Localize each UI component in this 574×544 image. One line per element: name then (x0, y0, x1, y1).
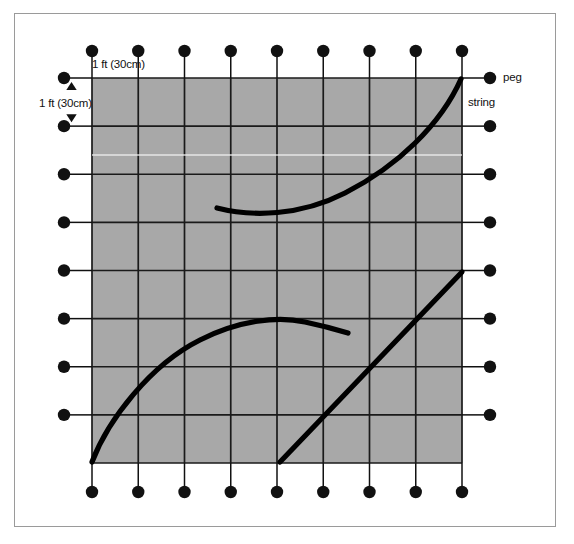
peg-bottom[interactable] (178, 486, 190, 498)
peg-bottom[interactable] (225, 486, 237, 498)
peg-left[interactable] (58, 312, 70, 324)
peg-top[interactable] (456, 45, 468, 57)
string-label: string (468, 96, 495, 108)
peg-right[interactable] (484, 312, 496, 324)
peg-bottom[interactable] (410, 486, 422, 498)
peg-bottom[interactable] (271, 486, 283, 498)
peg-top[interactable] (410, 45, 422, 57)
peg-top[interactable] (363, 45, 375, 57)
peg-bottom[interactable] (86, 486, 98, 498)
peg-left[interactable] (58, 120, 70, 132)
peg-top[interactable] (317, 45, 329, 57)
peg-right[interactable] (484, 264, 496, 276)
peg-left[interactable] (58, 264, 70, 276)
peg-top[interactable] (86, 45, 98, 57)
peg-left[interactable] (58, 168, 70, 180)
left-scale-label: 1 ft (30cm) (39, 97, 92, 109)
peg-bottom[interactable] (317, 486, 329, 498)
peg-top[interactable] (225, 45, 237, 57)
peg-bottom[interactable] (363, 486, 375, 498)
peg-top[interactable] (132, 45, 144, 57)
peg-left[interactable] (58, 216, 70, 228)
measure-arrow-down-icon (66, 114, 76, 122)
peg-left[interactable] (58, 72, 70, 84)
peg-right[interactable] (484, 168, 496, 180)
peg-string-svg (0, 0, 574, 544)
peg-right[interactable] (484, 120, 496, 132)
peg-left[interactable] (58, 361, 70, 373)
peg-right[interactable] (484, 361, 496, 373)
peg-right[interactable] (484, 216, 496, 228)
measure-arrow-up-icon (66, 82, 76, 90)
peg-label: peg (503, 71, 522, 83)
peg-bottom[interactable] (132, 486, 144, 498)
peg-left[interactable] (58, 409, 70, 421)
peg-right[interactable] (484, 409, 496, 421)
peg-top[interactable] (271, 45, 283, 57)
peg-bottom[interactable] (456, 486, 468, 498)
peg-right[interactable] (484, 72, 496, 84)
diagram-canvas: 1 ft (30cm) 1 ft (30cm) peg string (0, 0, 574, 544)
peg-top[interactable] (178, 45, 190, 57)
top-scale-label: 1 ft (30cm) (92, 58, 145, 70)
